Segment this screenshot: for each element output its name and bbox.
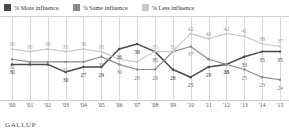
point-label-less: 41: [241, 28, 247, 34]
point-label-less: 35: [99, 44, 105, 50]
data-point-more: [279, 50, 281, 52]
legend-label-same: % Same influence: [83, 4, 128, 11]
data-point-same: [100, 56, 102, 58]
point-label-more: 29: [206, 72, 212, 78]
legend-swatch-more: [4, 4, 11, 11]
point-label-less: 36: [45, 41, 51, 47]
legend-swatch-less: [142, 4, 149, 11]
data-point-more: [189, 76, 191, 78]
data-point-same: [189, 45, 191, 47]
legend-label-more: % More influence: [14, 4, 59, 11]
x-tick-02: '02: [44, 102, 51, 108]
point-label-less: 40: [206, 31, 212, 37]
point-label-same: 24: [277, 85, 283, 91]
point-label-more: 35: [277, 57, 283, 63]
point-label-more: 30: [9, 69, 15, 75]
data-point-same: [207, 58, 209, 60]
legend-item-more: % More influence: [4, 4, 59, 11]
data-point-same: [11, 58, 13, 60]
data-point-same: [47, 61, 49, 63]
point-label-same: 31: [63, 67, 69, 73]
point-label-less: 35: [170, 44, 176, 50]
point-label-less: 37: [277, 38, 283, 44]
point-label-less: 38: [259, 36, 265, 42]
x-tick-15: '15: [277, 102, 284, 108]
data-point-less: [64, 50, 66, 52]
data-point-less: [207, 38, 209, 40]
plot-area: 3635363536353535424042413837323133302828…: [0, 16, 289, 100]
x-tick-04: '04: [80, 102, 87, 108]
point-label-more: 30: [224, 69, 230, 75]
x-tick-08: '08: [152, 102, 159, 108]
data-point-same: [243, 68, 245, 70]
gallup-brand: GALLUP: [5, 121, 36, 129]
data-point-less: [261, 43, 263, 45]
x-axis: '00'01'02'03'04'05'06'07'08'09'10'11'12'…: [0, 100, 289, 116]
data-point-same: [64, 61, 66, 63]
point-label-less: 42: [224, 26, 230, 32]
x-tick-00: '00: [9, 102, 16, 108]
point-label-more: 27: [81, 72, 87, 78]
data-point-less: [243, 35, 245, 37]
point-label-more: 36: [116, 54, 122, 60]
point-label-same: 37: [188, 51, 194, 57]
x-axis-rule: [0, 100, 289, 101]
data-point-less: [82, 48, 84, 50]
data-point-more: [243, 56, 245, 58]
data-point-less: [154, 50, 156, 52]
point-label-same: 30: [116, 69, 122, 75]
x-tick-05: '05: [98, 102, 105, 108]
point-label-more: 28: [170, 75, 176, 81]
data-point-more: [136, 43, 138, 45]
x-tick-09: '09: [169, 102, 176, 108]
data-point-less: [279, 45, 281, 47]
data-point-less: [189, 32, 191, 34]
point-label-same: 28: [152, 75, 158, 81]
series-line-same: [12, 46, 280, 79]
x-tick-06: '06: [116, 102, 123, 108]
data-point-less: [29, 50, 31, 52]
legend-swatch-same: [73, 4, 80, 11]
x-tick-13: '13: [241, 102, 248, 108]
data-point-same: [82, 61, 84, 63]
chart-container: % More influence% Same influence% Less i…: [0, 0, 289, 138]
data-point-more: [261, 50, 263, 52]
data-point-less: [11, 48, 13, 50]
data-point-same: [136, 68, 138, 70]
x-tick-07: '07: [134, 102, 141, 108]
point-label-more: 35: [259, 57, 265, 63]
point-label-same: 25: [241, 75, 247, 81]
x-tick-12: '12: [223, 102, 230, 108]
point-label-less: 35: [152, 44, 158, 50]
data-point-same: [261, 76, 263, 78]
data-point-same: [279, 79, 281, 81]
legend-item-same: % Same influence: [73, 4, 128, 11]
point-label-less: 36: [81, 41, 87, 47]
legend-label-less: % Less influence: [152, 4, 195, 11]
x-tick-01: '01: [26, 102, 33, 108]
legend-item-less: % Less influence: [142, 4, 195, 11]
data-point-more: [29, 63, 31, 65]
point-label-same: 23: [259, 82, 265, 88]
data-point-same: [154, 68, 156, 70]
point-label-less: 35: [63, 44, 69, 50]
x-tick-11: '11: [205, 102, 212, 108]
data-point-more: [82, 66, 84, 68]
point-label-more: 33: [241, 62, 247, 68]
data-point-less: [136, 61, 138, 63]
data-point-same: [29, 61, 31, 63]
point-label-less: 42: [188, 26, 194, 32]
data-point-less: [225, 32, 227, 34]
data-point-same: [118, 63, 120, 65]
data-point-more: [172, 68, 174, 70]
data-point-less: [172, 50, 174, 52]
point-label-less: 35: [27, 44, 33, 50]
x-tick-14: '14: [259, 102, 266, 108]
series-line-more: [12, 44, 280, 77]
data-point-more: [207, 66, 209, 68]
point-label-more: 30: [63, 77, 69, 83]
point-label-more: 35: [152, 57, 158, 63]
x-tick-03: '03: [62, 102, 69, 108]
data-point-same: [225, 63, 227, 65]
point-label-same: 33: [99, 62, 105, 68]
